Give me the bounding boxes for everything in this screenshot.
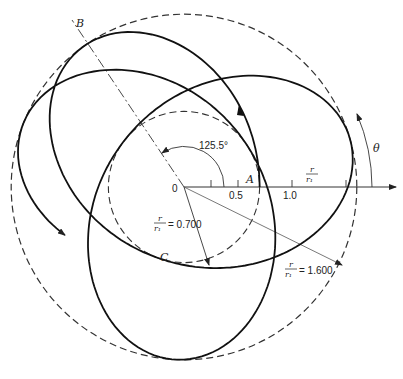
tick-label-0-5: 0.5 [229,190,243,201]
axis-label-numerator: r [310,165,315,174]
outer-value-label: = 1.600 [299,265,333,276]
orbit-path [18,32,353,360]
axis-label-denominator: r₁ [306,175,313,184]
outer-label-numerator: r [289,260,294,269]
inner-label-denominator: r₁ [154,224,161,233]
angle-label: 125.5° [199,140,228,151]
point-a-label: A [245,173,254,186]
theta-label: θ [373,142,380,155]
tick-label-1-0: 1.0 [283,190,297,201]
theta-arc [357,114,372,187]
apsidal-line-dashed [72,20,184,187]
inner-value-label: = 0.700 [168,219,202,230]
outer-label-denominator: r₁ [285,270,292,279]
inner-label-numerator: r [158,214,163,223]
point-b-label: B [75,17,84,30]
origin-label: 0 [172,183,178,194]
axis-ticks [211,180,346,187]
outer-radius-arrow [184,187,342,265]
apsidal-angle-arc [162,146,224,187]
point-c-label: C [160,251,169,264]
orbit-diagram: 0 A B C θ 125.5° 0.5 1.0 r r₁ r r₁ = 0.7… [0,0,403,379]
